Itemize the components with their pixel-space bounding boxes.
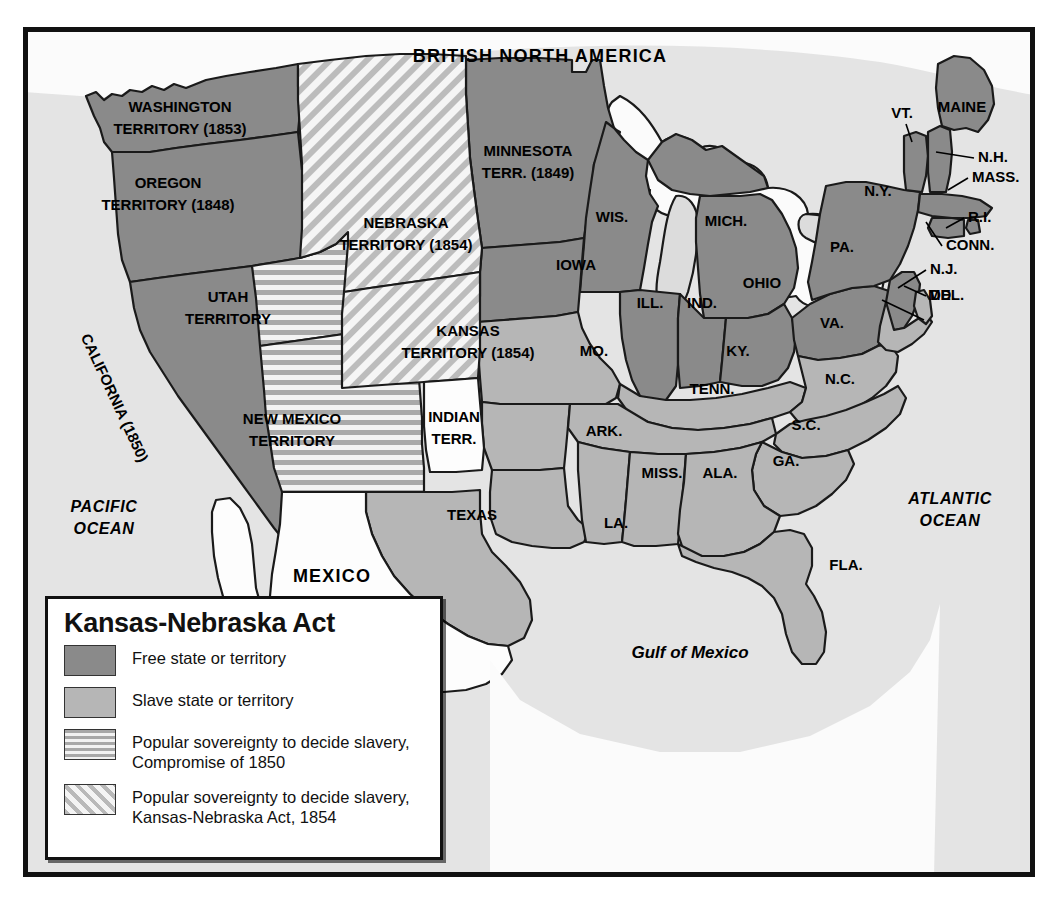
label-indian-territory-line2: TERR.: [432, 430, 477, 447]
label-ohio: OHIO: [743, 274, 782, 291]
label-pennsylvania: PA.: [830, 238, 854, 255]
label-delaware: DEL.: [930, 286, 964, 303]
map-root: BRITISH NORTH AMERICA MEXICO WASHINGTON …: [0, 0, 1058, 904]
label-alabama: ALA.: [703, 464, 738, 481]
label-utah-territory-line1: UTAH: [208, 288, 249, 305]
legend-swatch-compromise-1850: [64, 729, 116, 760]
legend-item-compromise-1850: Popular sovereignty to decide slavery, C…: [64, 729, 426, 772]
label-minnesota-territory-line1: MINNESOTA: [484, 142, 573, 159]
region-indian-territory: [424, 378, 484, 472]
legend-label-compromise-1850: Popular sovereignty to decide slavery, C…: [132, 729, 410, 772]
label-rhode-island: R.I.: [968, 208, 991, 225]
legend-swatch-kansas-nebraska: [64, 784, 116, 815]
label-michigan: MICH.: [705, 212, 748, 229]
label-missouri: MO.: [580, 342, 608, 359]
label-washington-territory-line1: WASHINGTON: [128, 98, 231, 115]
label-oregon-territory-line1: OREGON: [135, 174, 202, 191]
label-tennessee: TENN.: [690, 380, 735, 397]
label-mississippi: MISS.: [642, 464, 683, 481]
label-british-north-america: BRITISH NORTH AMERICA: [413, 46, 668, 66]
label-minnesota-territory-line2: TERR. (1849): [482, 164, 575, 181]
label-louisiana: LA.: [604, 514, 628, 531]
legend-item-slave: Slave state or territory: [64, 687, 426, 718]
region-new-hampshire: [928, 126, 952, 192]
label-new-jersey: N.J.: [930, 260, 958, 277]
label-florida: FLA.: [829, 556, 862, 573]
label-atlantic-ocean-line2: OCEAN: [920, 512, 981, 529]
label-kansas-territory-line1: KANSAS: [436, 322, 499, 339]
label-maine: MAINE: [938, 98, 986, 115]
label-vermont: VT.: [891, 104, 913, 121]
label-nebraska-territory-line2: TERRITORY (1854): [339, 236, 472, 253]
label-mexico: MEXICO: [293, 566, 371, 586]
label-illinois: ILL.: [637, 294, 664, 311]
region-arkansas: [482, 402, 570, 470]
label-pacific-ocean-line1: PACIFIC: [70, 498, 137, 515]
label-atlantic-ocean-line1: ATLANTIC: [907, 490, 992, 507]
legend-label-slave: Slave state or territory: [132, 687, 293, 710]
label-iowa: IOWA: [556, 256, 596, 273]
label-gulf-of-mexico: Gulf of Mexico: [631, 643, 748, 662]
legend-label-kansas-nebraska-line1: Popular sovereignty to decide slavery,: [132, 787, 410, 807]
label-utah-territory-line2: TERRITORY: [185, 310, 271, 327]
map-legend: Kansas-Nebraska Act Free state or territ…: [45, 596, 443, 860]
label-washington-territory-line2: TERRITORY (1853): [113, 120, 246, 137]
legend-item-kansas-nebraska: Popular sovereignty to decide slavery, K…: [64, 784, 426, 827]
legend-label-free: Free state or territory: [132, 645, 286, 668]
label-kentucky: KY.: [726, 342, 749, 359]
label-wisconsin: WIS.: [596, 208, 629, 225]
label-kansas-territory-line2: TERRITORY (1854): [401, 344, 534, 361]
legend-label-compromise-1850-line1: Popular sovereignty to decide slavery,: [132, 732, 410, 752]
legend-swatch-slave: [64, 687, 116, 718]
label-oregon-territory-line2: TERRITORY (1848): [101, 196, 234, 213]
label-indian-territory-line1: INDIAN: [428, 408, 480, 425]
legend-swatch-free: [64, 645, 116, 676]
label-new-hampshire: N.H.: [978, 148, 1008, 165]
legend-item-free: Free state or territory: [64, 645, 426, 676]
region-iowa: [478, 238, 584, 322]
legend-label-compromise-1850-line2: Compromise of 1850: [132, 752, 410, 772]
legend-label-kansas-nebraska: Popular sovereignty to decide slavery, K…: [132, 784, 410, 827]
label-texas: TEXAS: [447, 506, 497, 523]
label-arkansas: ARK.: [586, 422, 623, 439]
label-north-carolina: N.C.: [825, 370, 855, 387]
label-pacific-ocean-line2: OCEAN: [74, 520, 135, 537]
legend-title: Kansas-Nebraska Act: [64, 609, 426, 637]
label-georgia: GA.: [773, 452, 800, 469]
label-virginia: VA.: [820, 314, 844, 331]
label-massachusetts: MASS.: [972, 168, 1020, 185]
label-indiana: IND.: [687, 294, 717, 311]
label-nebraska-territory-line1: NEBRASKA: [363, 214, 448, 231]
label-new-mexico-territory-line2: TERRITORY: [249, 432, 335, 449]
label-south-carolina: S.C.: [791, 416, 820, 433]
region-vermont: [904, 132, 928, 192]
label-new-york: N.Y.: [864, 182, 892, 199]
label-connecticut: CONN.: [946, 236, 994, 253]
label-new-mexico-territory-line1: NEW MEXICO: [243, 410, 342, 427]
legend-label-kansas-nebraska-line2: Kansas-Nebraska Act, 1854: [132, 807, 410, 827]
